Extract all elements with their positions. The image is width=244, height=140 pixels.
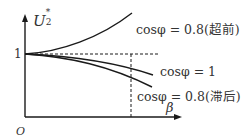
curve-label-unity: cosφ = 1: [160, 66, 216, 79]
curve-label-leading: cosφ = 0.8(超前): [136, 24, 240, 37]
y-axis-arrow-icon: [22, 14, 28, 22]
y-tick-one: 1: [14, 48, 22, 60]
y-axis-label-sup: *: [46, 8, 51, 17]
curve-label-lagging: cosφ = 0.8(滞后): [137, 91, 241, 104]
y-axis-label-sub: 2: [46, 18, 52, 27]
x-axis-arrow-icon: [174, 114, 182, 120]
curve-unity: [25, 54, 153, 75]
curve-lagging: [25, 54, 152, 87]
y-axis-label: U*2: [33, 10, 54, 29]
y-axis-label-main: U: [33, 12, 46, 30]
origin-label: O: [16, 126, 25, 137]
